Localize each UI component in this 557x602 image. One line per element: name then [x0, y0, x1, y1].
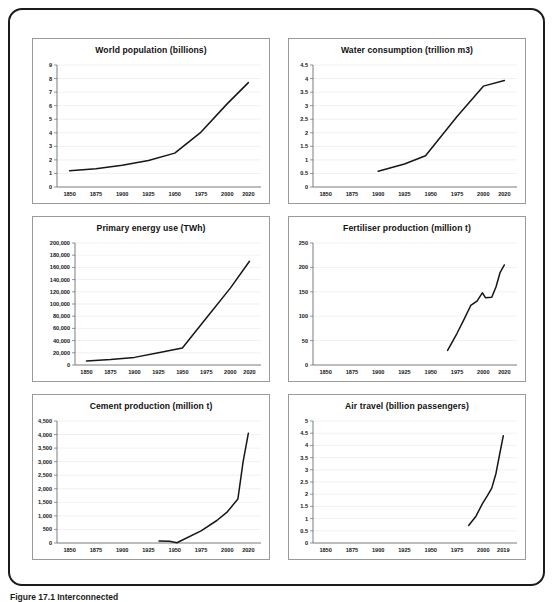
y-tick-label: 6 [49, 103, 52, 109]
y-tick-label: 100,000 [50, 301, 70, 307]
plot-area-water-consumption: 00.511.522.533.544.518501875190019251950… [289, 59, 525, 203]
y-tick-label: 2 [305, 130, 308, 136]
y-tick-label: 2.5 [300, 479, 308, 485]
x-tick-label: 1850 [63, 547, 75, 553]
y-tick-label: 1 [49, 170, 52, 176]
x-tick-label: 2000 [477, 369, 489, 375]
y-tick-label: 9 [49, 62, 52, 68]
y-tick-label: 3 [305, 103, 308, 109]
x-tick-label: 2000 [477, 191, 489, 197]
chart-title-fertiliser-production: Fertiliser production (million t) [293, 224, 521, 233]
y-tick-label: 2,000 [38, 486, 52, 492]
plot-area-primary-energy-use: 020,00040,00060,00080,000100,000120,0001… [33, 237, 269, 381]
plot-area-fertiliser-production: 0501001502002501850187519001925195019752… [289, 237, 525, 381]
x-tick-label: 1875 [90, 547, 102, 553]
y-tick-label: 4 [305, 76, 309, 82]
y-tick-label: 160,000 [50, 264, 70, 270]
x-tick-label: 1975 [451, 369, 463, 375]
chart-svg-primary-energy-use: 020,00040,00060,00080,000100,000120,0001… [33, 237, 269, 381]
x-tick-label: 1850 [319, 191, 331, 197]
x-tick-label: 1975 [195, 191, 207, 197]
y-tick-label: 1,000 [38, 513, 52, 519]
y-tick-label: 20,000 [53, 350, 70, 356]
y-tick-label: 1.5 [300, 143, 308, 149]
x-tick-label: 1850 [319, 369, 331, 375]
y-tick-label: 3.5 [300, 89, 308, 95]
y-tick-label: 0 [305, 540, 308, 546]
x-tick-label: 1900 [128, 369, 140, 375]
y-tick-label: 150 [299, 289, 308, 295]
y-tick-label: 4 [305, 442, 309, 448]
x-tick-label: 1875 [346, 369, 358, 375]
chart-svg-world-population: 0123456789185018751900192519501975200020… [33, 59, 269, 203]
chart-svg-water-consumption: 00.511.522.533.544.518501875190019251950… [289, 59, 525, 203]
y-tick-label: 2.5 [300, 116, 308, 122]
x-tick-label: 1925 [142, 547, 154, 553]
series-line-air-travel [469, 436, 504, 526]
chart-title-world-population: World population (billions) [37, 46, 265, 55]
y-tick-label: 5 [305, 418, 308, 424]
x-tick-label: 1925 [152, 369, 164, 375]
x-tick-label: 1950 [169, 191, 181, 197]
y-tick-label: 200 [299, 264, 308, 270]
series-line-water-consumption [378, 80, 504, 171]
figure-caption: Figure 17.1 Interconnected [10, 592, 118, 602]
x-tick-label: 2000 [221, 191, 233, 197]
y-tick-label: 4.5 [300, 62, 308, 68]
y-tick-label: 3 [305, 467, 308, 473]
x-tick-label: 1950 [176, 369, 188, 375]
y-tick-label: 2,500 [38, 472, 52, 478]
series-line-fertiliser-production [448, 265, 505, 350]
y-tick-label: 40,000 [53, 338, 70, 344]
figure-frame: World population (billions) 012345678918… [8, 8, 545, 586]
x-tick-label: 1925 [398, 369, 410, 375]
y-tick-label: 7 [49, 89, 52, 95]
y-tick-label: 3.5 [300, 455, 308, 461]
chart-panel-grid: World population (billions) 012345678918… [32, 38, 526, 560]
series-line-primary-energy-use [87, 261, 250, 361]
plot-area-cement-production: 05001,0001,5002,0002,5003,0003,5004,0004… [33, 415, 269, 559]
x-tick-label: 1950 [425, 191, 437, 197]
y-tick-label: 1 [305, 516, 308, 522]
y-tick-label: 0.5 [300, 170, 308, 176]
plot-area-world-population: 0123456789185018751900192519501975200020… [33, 59, 269, 203]
y-tick-label: 2 [305, 491, 308, 497]
y-tick-label: 0 [49, 184, 52, 190]
y-tick-label: 0 [305, 362, 308, 368]
y-tick-label: 5 [49, 116, 52, 122]
y-tick-label: 3 [49, 143, 52, 149]
x-tick-label: 2000 [477, 547, 489, 553]
y-tick-label: 8 [49, 76, 52, 82]
chart-svg-air-travel: 00.511.522.533.544.551850187519001925195… [289, 415, 525, 559]
x-tick-label: 1875 [346, 191, 358, 197]
y-tick-label: 500 [43, 526, 52, 532]
y-tick-label: 80,000 [53, 313, 70, 319]
chart-panel-primary-energy-use: Primary energy use (TWh) 020,00040,00060… [32, 216, 270, 382]
x-tick-label: 1975 [451, 547, 463, 553]
x-tick-label: 2020 [498, 369, 510, 375]
x-tick-label: 1975 [451, 191, 463, 197]
x-tick-label: 2000 [224, 369, 236, 375]
x-tick-label: 1950 [425, 547, 437, 553]
y-tick-label: 180,000 [50, 252, 70, 258]
series-line-cement-production [159, 433, 248, 543]
plot-area-air-travel: 00.511.522.533.544.551850187519001925195… [289, 415, 525, 559]
y-tick-label: 1.5 [300, 503, 308, 509]
series-line-world-population [70, 83, 249, 171]
chart-title-water-consumption: Water consumption (trillion m3) [293, 46, 521, 55]
chart-svg-cement-production: 05001,0001,5002,0002,5003,0003,5004,0004… [33, 415, 269, 559]
x-tick-label: 2019 [497, 547, 509, 553]
x-tick-label: 1925 [398, 547, 410, 553]
y-tick-label: 0 [305, 184, 308, 190]
y-tick-label: 4,500 [38, 418, 52, 424]
x-tick-label: 2020 [243, 369, 255, 375]
x-tick-label: 1900 [116, 547, 128, 553]
y-tick-label: 0 [67, 362, 70, 368]
x-tick-label: 1975 [200, 369, 212, 375]
x-tick-label: 1850 [80, 369, 92, 375]
x-tick-label: 2020 [498, 191, 510, 197]
chart-panel-air-travel: Air travel (billion passengers) 00.511.5… [288, 394, 526, 560]
chart-title-primary-energy-use: Primary energy use (TWh) [37, 224, 265, 233]
x-tick-label: 1950 [425, 369, 437, 375]
x-tick-label: 1875 [90, 191, 102, 197]
